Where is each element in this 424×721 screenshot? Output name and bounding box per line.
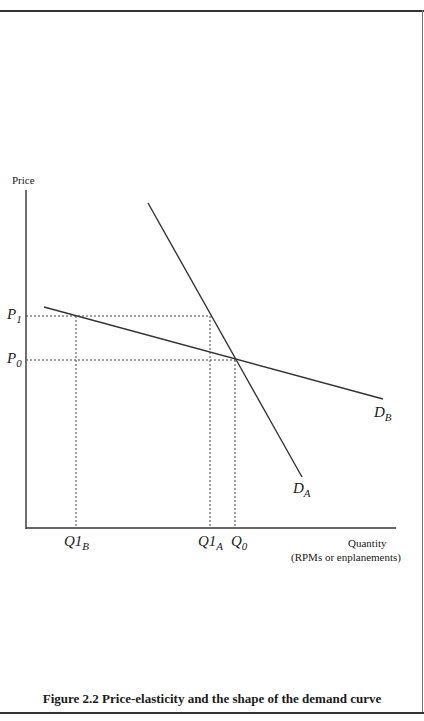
price-label-p0: P0: [7, 350, 22, 369]
curve-label-db: DB: [374, 404, 392, 423]
price-label-p1: P1: [7, 306, 22, 325]
figure-caption: Figure 2.2 Price-elasticity and the shap…: [0, 691, 424, 707]
bottom-border-rule: [0, 712, 424, 714]
demand-curve-a: [148, 203, 302, 477]
x-axis-label: Quantity: [348, 537, 387, 549]
quantity-label-q1a: Q1A: [198, 533, 223, 552]
curve-label-da: DA: [293, 480, 311, 499]
x-axis-sublabel: (RPMs or enplanements): [291, 551, 401, 563]
quantity-label-q1b: Q1B: [64, 533, 89, 552]
y-axis-label: Price: [12, 174, 35, 186]
quantity-label-q0: Q0: [231, 533, 247, 552]
demand-diagram: [0, 0, 424, 721]
